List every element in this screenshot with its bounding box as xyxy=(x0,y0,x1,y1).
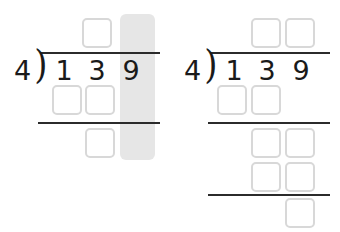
product-box-2[interactable] xyxy=(251,85,281,115)
division-vinculum xyxy=(210,52,330,54)
product2-box-2[interactable] xyxy=(285,162,315,192)
dividend-digit-tens: 3 xyxy=(84,57,110,84)
bringdown-box-1[interactable] xyxy=(251,128,281,158)
bringdown-box-2[interactable] xyxy=(285,128,315,158)
quotient-box-1[interactable] xyxy=(82,18,112,48)
product-box-1[interactable] xyxy=(52,85,82,115)
quotient-box-1[interactable] xyxy=(251,18,281,48)
division-bracket-icon: ) xyxy=(204,44,217,84)
dividend-digit-ones: 9 xyxy=(118,57,144,84)
subtraction-rule-1 xyxy=(208,122,330,124)
long-division-problem-left: 4 ) 1 3 9 xyxy=(0,0,170,232)
product2-box-1[interactable] xyxy=(251,162,281,192)
subtraction-rule-2 xyxy=(208,194,330,196)
worksheet-canvas: 4 ) 1 3 9 4 ) 1 3 9 xyxy=(0,0,340,232)
dividend-digit-hundreds: 1 xyxy=(221,57,247,84)
remainder-box-1[interactable] xyxy=(85,128,115,158)
product-box-1[interactable] xyxy=(217,85,247,115)
dividend-digit-tens: 3 xyxy=(254,57,280,84)
divisor-digit: 4 xyxy=(14,57,31,84)
dividend-digit-hundreds: 1 xyxy=(51,57,77,84)
subtraction-rule-1 xyxy=(38,122,160,124)
product-box-2[interactable] xyxy=(85,85,115,115)
division-vinculum xyxy=(40,52,160,54)
long-division-problem-right: 4 ) 1 3 9 xyxy=(170,0,340,232)
quotient-box-2[interactable] xyxy=(285,18,315,48)
ones-column-highlight xyxy=(120,14,155,160)
divisor-digit: 4 xyxy=(184,57,201,84)
remainder-box-1[interactable] xyxy=(285,198,315,228)
division-bracket-icon: ) xyxy=(34,44,47,84)
dividend-digit-ones: 9 xyxy=(288,57,314,84)
